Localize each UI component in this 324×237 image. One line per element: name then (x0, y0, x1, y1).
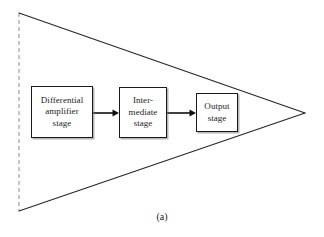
figure-caption-text: (a) (156, 211, 167, 222)
block-output-stage: Output stage (196, 93, 238, 132)
arrow-diff-to-inter (93, 110, 119, 117)
block-label-intermediate-stage: Inter- mediate stage (127, 95, 160, 130)
block-intermediate-stage: Inter- mediate stage (119, 87, 167, 138)
figure-caption: (a) (0, 211, 324, 222)
block-label-output-stage: Output stage (202, 101, 231, 124)
op-amp-block-diagram-figure: Differential amplifier stage Inter- medi… (0, 0, 324, 237)
block-label-differential-amplifier-stage: Differential amplifier stage (39, 95, 85, 130)
block-differential-amplifier-stage: Differential amplifier stage (31, 86, 93, 138)
arrow-inter-to-output (167, 110, 196, 117)
